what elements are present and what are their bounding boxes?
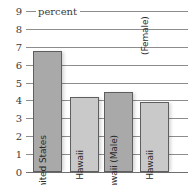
- y-tick-label-8: 8: [0, 25, 22, 35]
- bar-label-hawaii: Hawaii: [76, 150, 85, 180]
- y-tick-label-7: 7: [0, 43, 22, 53]
- y-tick-label-6: 6: [0, 61, 22, 71]
- bar-hawaii-male: Hawaii (Male): [104, 92, 133, 173]
- bar-label-hawaii-female: Hawaii: [146, 150, 155, 180]
- gridline-8: [26, 29, 188, 30]
- y-tick-label-1: 1: [0, 150, 22, 160]
- bar-annotation-female: (Female): [141, 16, 150, 55]
- gridline-7: [26, 47, 188, 48]
- y-tick-label-0: 0: [0, 168, 22, 178]
- plot-area: United States Hawaii Hawaii (Male) Hawai…: [26, 11, 188, 172]
- gridline-0-baseline: [26, 172, 188, 173]
- y-tick-label-9: 9: [0, 7, 22, 17]
- bar-label-hawaii-male: Hawaii (Male): [110, 135, 119, 185]
- axis-unit-label: percent: [36, 7, 80, 17]
- bar-label-united-states: United States: [39, 135, 48, 185]
- bar-hawaii: Hawaii: [70, 97, 99, 172]
- y-tick-label-4: 4: [0, 96, 22, 106]
- bar-hawaii-female: Hawaii: [140, 102, 169, 172]
- y-tick-label-2: 2: [0, 132, 22, 142]
- y-tick-label-5: 5: [0, 79, 22, 89]
- bar-chart: 9 8 7 6 5 4 3 2 1 0 United States Hawaii…: [0, 0, 194, 185]
- y-tick-label-3: 3: [0, 114, 22, 124]
- bar-united-states: United States: [33, 51, 62, 172]
